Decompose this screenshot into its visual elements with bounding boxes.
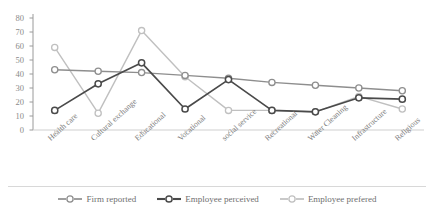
legend-marker-icon [279, 194, 305, 204]
legend-item: Employee perceived [156, 194, 259, 204]
y-tick-label: 60 [6, 42, 24, 51]
data-point [399, 96, 405, 102]
y-tick-label: 70 [6, 28, 24, 37]
legend-marker-icon [57, 194, 83, 204]
y-tick-label: 50 [6, 56, 24, 65]
legend-label: Employee prefered [308, 194, 377, 204]
chart-legend: Firm reportedEmployee perceivedEmployee … [0, 188, 434, 210]
data-point [182, 72, 188, 78]
data-point [225, 107, 231, 113]
y-tick-label: 20 [6, 98, 24, 107]
data-point [356, 85, 362, 91]
data-point [312, 109, 318, 115]
data-point [95, 110, 101, 116]
data-point [52, 107, 58, 113]
plot-area [0, 0, 434, 216]
legend-label: Firm reported [86, 194, 136, 204]
data-point [225, 77, 231, 83]
legend-marker-icon [156, 194, 182, 204]
data-point [399, 106, 405, 112]
data-point [52, 44, 58, 50]
legend-label: Employee perceived [185, 194, 259, 204]
legend-item: Firm reported [57, 194, 136, 204]
legend-divider [8, 186, 426, 187]
legend-item: Employee prefered [279, 194, 377, 204]
data-point [356, 95, 362, 101]
data-point [139, 60, 145, 66]
data-point [399, 88, 405, 94]
data-point [312, 82, 318, 88]
data-point [139, 28, 145, 34]
data-point [95, 68, 101, 74]
y-tick-label: 10 [6, 112, 24, 121]
data-point [52, 67, 58, 73]
y-tick-label: 0 [6, 126, 24, 135]
y-tick-label: 80 [6, 14, 24, 23]
data-point [139, 70, 145, 76]
line-chart: 80706050403020100 Health careCultural ex… [0, 0, 434, 216]
data-point [182, 106, 188, 112]
data-point [95, 81, 101, 87]
data-point [269, 107, 275, 113]
y-tick-label: 40 [6, 70, 24, 79]
y-tick-label: 30 [6, 84, 24, 93]
data-point [269, 79, 275, 85]
